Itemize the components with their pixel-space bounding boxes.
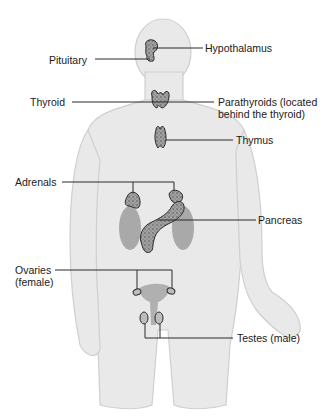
thymus-gland bbox=[155, 126, 166, 148]
label-parathyroids-line1: Parathyroids (located bbox=[218, 96, 317, 108]
label-testes: Testes (male) bbox=[237, 332, 300, 344]
label-ovaries: Ovaries (female) bbox=[15, 264, 54, 288]
label-pituitary: Pituitary bbox=[49, 54, 87, 66]
label-hypothalamus: Hypothalamus bbox=[205, 42, 272, 54]
endocrine-diagram: Hypothalamus Pituitary Thyroid Parathyro… bbox=[0, 0, 336, 419]
label-parathyroids-line2: behind the thyroid) bbox=[218, 108, 317, 120]
label-ovaries-line2: (female) bbox=[15, 276, 54, 288]
testis-right bbox=[155, 312, 163, 324]
label-adrenals: Adrenals bbox=[15, 176, 56, 188]
kidney-left bbox=[119, 206, 141, 250]
label-pancreas: Pancreas bbox=[258, 214, 302, 226]
thyroid-gland bbox=[152, 90, 170, 108]
label-ovaries-line1: Ovaries bbox=[15, 264, 54, 276]
label-thymus: Thymus bbox=[236, 134, 273, 146]
label-parathyroids: Parathyroids (located behind the thyroid… bbox=[218, 96, 317, 120]
testis-left bbox=[140, 312, 148, 324]
label-thyroid: Thyroid bbox=[30, 96, 65, 108]
